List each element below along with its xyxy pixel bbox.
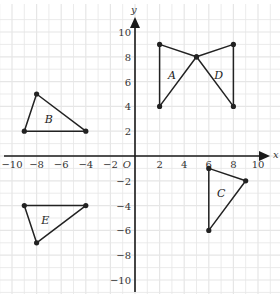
origin-label: O	[123, 159, 131, 170]
y-axis-label: y	[130, 4, 137, 15]
vertex-point	[157, 104, 162, 109]
y-tick-label: 10	[118, 27, 131, 38]
shape-label: D	[213, 69, 223, 82]
y-tick-label: −4	[116, 201, 131, 212]
vertex-point	[83, 129, 88, 134]
x-tick-label: 8	[230, 159, 236, 170]
y-tick-label: −10	[110, 275, 131, 286]
vertex-point	[83, 203, 88, 208]
x-tick-label: −2	[103, 159, 118, 170]
x-tick-label: −6	[54, 159, 69, 170]
vertex-point	[194, 54, 199, 59]
triangle-e: E	[22, 203, 89, 245]
y-tick-label: −2	[116, 176, 131, 187]
grid-lines	[0, 4, 280, 294]
axes: xy	[4, 4, 279, 292]
x-tick-label: −8	[29, 159, 44, 170]
y-axis-arrow-icon	[130, 17, 140, 28]
shape-label: A	[167, 69, 176, 82]
coordinate-grid: xy −10−8−6−4−2246810−10−8−6−4−2246810O A…	[0, 0, 280, 296]
triangle-a: A	[157, 42, 199, 109]
vertex-point	[22, 203, 27, 208]
y-tick-label: 2	[125, 126, 131, 137]
vertex-point	[157, 42, 162, 47]
y-tick-label: 4	[125, 101, 131, 112]
vertex-point	[231, 42, 236, 47]
shape-label: E	[40, 214, 49, 227]
vertex-point	[206, 166, 211, 171]
y-tick-label: −6	[116, 225, 131, 236]
vertex-point	[34, 240, 39, 245]
triangle-c: C	[206, 166, 248, 233]
y-tick-label: −8	[116, 250, 131, 261]
x-tick-label: 10	[252, 159, 265, 170]
y-tick-label: 8	[125, 52, 131, 63]
vertex-point	[243, 178, 248, 183]
shape-label: C	[217, 187, 226, 200]
x-tick-label: −4	[78, 159, 93, 170]
triangle-d: D	[194, 42, 236, 109]
x-tick-label: −10	[1, 159, 22, 170]
vertex-point	[22, 129, 27, 134]
triangle-b: B	[22, 91, 89, 133]
shape-label: B	[44, 113, 53, 126]
x-axis-label: x	[273, 149, 279, 160]
vertex-point	[206, 228, 211, 233]
y-tick-label: 6	[125, 77, 131, 88]
vertex-point	[231, 104, 236, 109]
x-tick-label: 2	[156, 159, 162, 170]
x-tick-label: 4	[181, 159, 187, 170]
vertex-point	[34, 91, 39, 96]
